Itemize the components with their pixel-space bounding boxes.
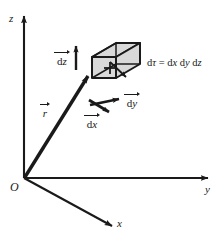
y-axis-label: y	[205, 184, 210, 195]
origin-label: O	[10, 181, 19, 193]
r-symbol-text: r	[43, 107, 47, 119]
dz-var: z	[63, 55, 67, 67]
dy-symbol: dy	[124, 98, 140, 109]
dz-overarrow-icon	[54, 50, 70, 55]
r-symbol: r	[40, 108, 50, 119]
r-overarrow-icon	[40, 102, 50, 107]
figure-canvas	[0, 0, 224, 244]
formula-t3-var: z	[198, 57, 202, 68]
dy-vector-label: dy	[124, 92, 140, 109]
dz-vector-label: dz	[54, 50, 70, 67]
dx-overarrow-icon	[84, 113, 100, 118]
position-vector-arrow	[25, 76, 88, 177]
x-axis-label: x	[117, 218, 122, 229]
dy-var: y	[132, 97, 137, 109]
dz-symbol: dz	[54, 56, 70, 67]
dx-var: x	[92, 118, 97, 130]
dy-overarrow-icon	[124, 92, 140, 97]
vector-volume-element-figure: z y x O r dz dy dx dτ = dx dy dz	[0, 0, 224, 244]
dx-symbol: dx	[84, 119, 100, 130]
volume-element-cube	[92, 43, 140, 78]
x-axis-line	[24, 178, 112, 226]
position-vector-label: r	[40, 102, 50, 119]
dx-vector-label: dx	[84, 113, 100, 130]
z-axis-label: z	[9, 13, 13, 24]
volume-element-formula: dτ = dx dy dz	[147, 57, 202, 68]
